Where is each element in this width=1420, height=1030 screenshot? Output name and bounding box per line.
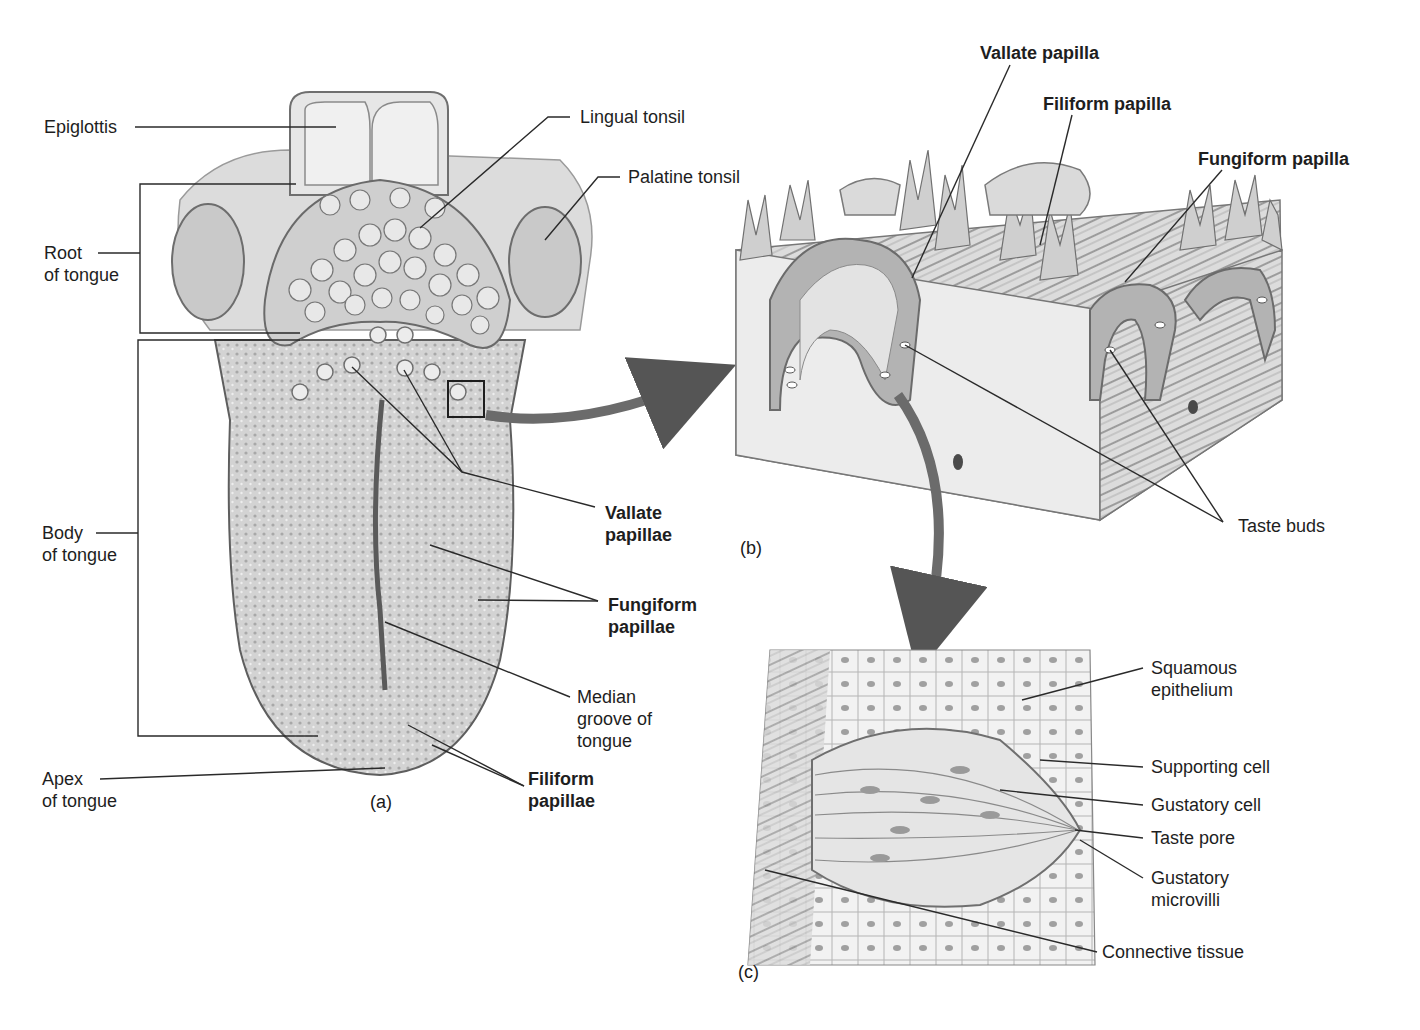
label-apex-of-tongue: Apex of tongue	[42, 768, 117, 812]
panel-b-caption: (b)	[740, 538, 762, 559]
papillae-block-illustration	[736, 150, 1282, 520]
panel-c-caption: (c)	[738, 962, 759, 983]
label-root-of-tongue: Root of tongue	[44, 242, 119, 286]
right-palatine-tonsil	[509, 207, 581, 317]
label-fungiform-papillae: Fungiform papillae	[608, 594, 697, 638]
label-connective-tissue: Connective tissue	[1102, 941, 1244, 963]
label-filiform-papillae: Filiform papillae	[528, 768, 595, 812]
taste-bud-illustration	[748, 650, 1095, 965]
label-squamous-epithelium: Squamous epithelium	[1151, 657, 1237, 701]
label-taste-pore: Taste pore	[1151, 827, 1235, 849]
label-palatine-tonsil: Palatine tonsil	[628, 166, 740, 188]
label-fungiform-papilla: Fungiform papilla	[1198, 148, 1349, 170]
label-vallate-papilla: Vallate papilla	[980, 42, 1099, 64]
label-median-groove: Median groove of tongue	[577, 686, 652, 752]
panel-a-caption: (a)	[370, 792, 392, 813]
label-gustatory-microvilli: Gustatory microvilli	[1151, 867, 1229, 911]
label-body-of-tongue: Body of tongue	[42, 522, 117, 566]
tongue-illustration	[172, 92, 592, 775]
left-palatine-tonsil	[172, 204, 244, 320]
label-lingual-tonsil: Lingual tonsil	[580, 106, 685, 128]
label-vallate-papillae: Vallate papillae	[605, 502, 672, 546]
label-epiglottis: Epiglottis	[44, 116, 117, 138]
label-taste-buds: Taste buds	[1238, 515, 1325, 537]
label-supporting-cell: Supporting cell	[1151, 756, 1270, 778]
label-gustatory-cell: Gustatory cell	[1151, 794, 1261, 816]
label-filiform-papilla: Filiform papilla	[1043, 93, 1171, 115]
